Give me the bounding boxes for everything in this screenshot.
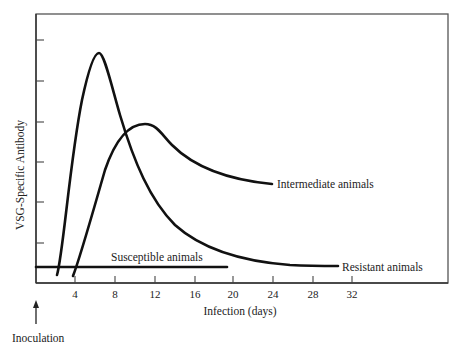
x-tick-label: 28: [308, 288, 320, 300]
x-axis-title: Infection (days): [203, 305, 276, 318]
antibody-chart: 4 8 12 16 20 24 28 32 Infection (days) V…: [0, 0, 462, 357]
x-tick-label: 20: [228, 288, 240, 300]
resistant-label: Resistant animals: [342, 261, 423, 273]
x-tick-label: 4: [72, 288, 78, 300]
x-tick-label: 32: [347, 288, 358, 300]
x-tick-label: 8: [112, 288, 118, 300]
x-tick-label: 16: [190, 288, 202, 300]
y-axis-title: VSG-Specific Antibody: [14, 120, 27, 230]
x-tick-label: 24: [268, 288, 280, 300]
arrow-up-icon: [33, 300, 39, 308]
x-tick-label: 12: [150, 288, 161, 300]
inoculation-annotation: Inoculation: [12, 300, 65, 344]
susceptible-label: Susceptible animals: [111, 251, 203, 264]
inoculation-label: Inoculation: [12, 332, 65, 344]
x-ticks: [75, 276, 352, 283]
x-tick-labels: 4 8 12 16 20 24 28 32: [72, 288, 357, 300]
y-ticks: [36, 40, 44, 243]
intermediate-label: Intermediate animals: [277, 178, 374, 190]
